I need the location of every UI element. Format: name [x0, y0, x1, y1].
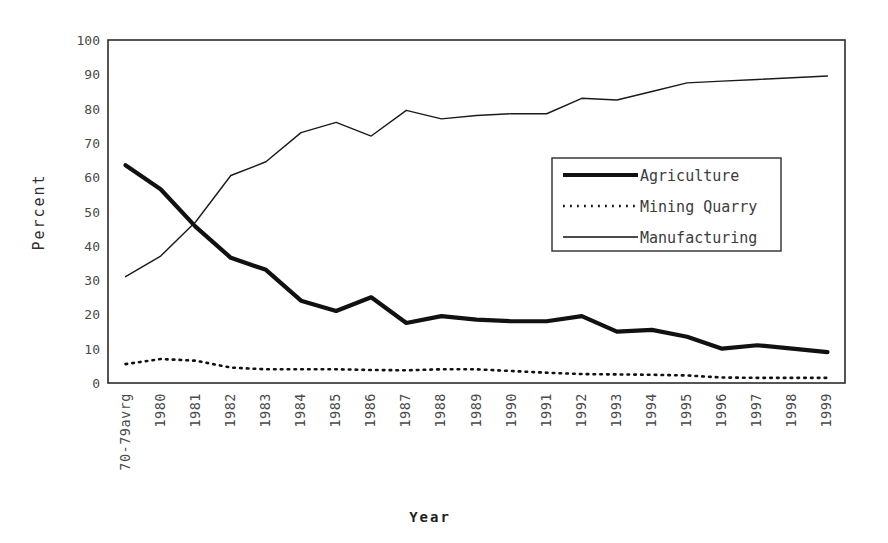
y-tick-label: 0 [92, 376, 100, 391]
x-tick-label: 1988 [432, 393, 448, 428]
line-chart: 0102030405060708090100 70-79avrg19801981… [0, 0, 888, 543]
x-tick-label: 1994 [643, 393, 659, 428]
x-tick-label: 1989 [468, 393, 484, 428]
x-tick-label: 1995 [678, 393, 694, 428]
y-tick-label: 30 [84, 273, 100, 288]
y-tick-label: 80 [84, 102, 100, 117]
y-tick-label: 10 [84, 342, 100, 357]
x-tick-label: 1986 [362, 393, 378, 428]
x-tick-label: 70-79avrg [117, 393, 133, 471]
x-axis-tick-labels: 70-79avrg1980198119821983198419851986198… [117, 393, 835, 471]
x-tick-label: 1992 [573, 393, 589, 428]
x-tick-label: 1990 [503, 393, 519, 428]
x-tick-label: 1993 [608, 393, 624, 428]
y-tick-label: 40 [84, 239, 100, 254]
series-line-mining-quarry [126, 359, 828, 378]
x-tick-label: 1985 [327, 393, 343, 428]
y-tick-label: 20 [84, 307, 100, 322]
chart-container: 0102030405060708090100 70-79avrg19801981… [0, 0, 888, 543]
x-tick-label: 1999 [818, 393, 834, 428]
x-tick-label: 1998 [783, 393, 799, 428]
legend-label-agriculture: Agriculture [640, 167, 739, 185]
y-tick-label: 90 [84, 67, 100, 82]
y-tick-label: 60 [84, 170, 100, 185]
y-axis-tick-labels: 0102030405060708090100 [77, 33, 100, 391]
legend-label-manufacturing: Manufacturing [640, 229, 757, 247]
x-axis-title: Year [409, 509, 451, 525]
x-tick-label: 1984 [292, 393, 308, 428]
x-tick-label: 1981 [187, 393, 203, 428]
y-axis-title: Percent [30, 173, 48, 250]
x-tick-label: 1997 [748, 393, 764, 428]
x-tick-label: 1996 [713, 393, 729, 428]
chart-legend: AgricultureMining QuarryManufacturing [552, 158, 781, 251]
y-tick-label: 100 [77, 33, 100, 48]
legend-label-mining-quarry: Mining Quarry [640, 198, 757, 216]
x-tick-label: 1987 [397, 393, 413, 428]
x-tick-label: 1991 [538, 393, 554, 428]
x-tick-label: 1980 [152, 393, 168, 428]
y-tick-label: 50 [84, 205, 100, 220]
x-tick-label: 1982 [222, 393, 238, 428]
x-tick-label: 1983 [257, 393, 273, 428]
y-tick-label: 70 [84, 136, 100, 151]
